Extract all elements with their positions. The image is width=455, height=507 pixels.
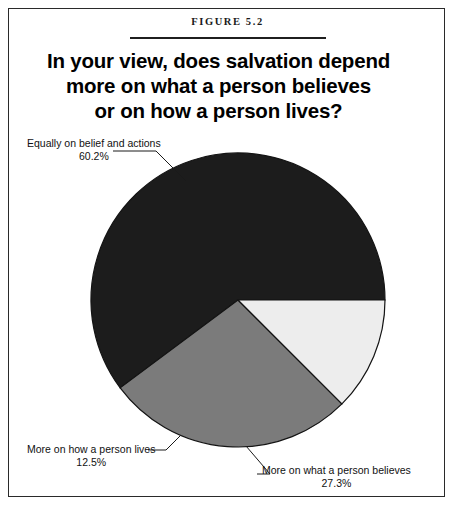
chart-title-line-1: In your view, does salvation depend: [14, 48, 423, 73]
header-divider: [130, 37, 326, 39]
callout-believes-percent: 27.3%: [262, 477, 411, 490]
callout-equally-percent: 60.2%: [27, 150, 161, 163]
figure-number-label: FIGURE 5.2: [0, 16, 455, 27]
chart-title: In your view, does salvation depend more…: [14, 48, 423, 123]
callout-lives-percent: 12.5%: [27, 456, 155, 469]
callout-lives: More on how a person lives 12.5%: [27, 443, 155, 469]
callout-believes-label: More on what a person believes: [262, 464, 411, 477]
callout-equally-label: Equally on belief and actions: [27, 137, 161, 150]
callout-equally: Equally on belief and actions 60.2%: [27, 137, 161, 163]
chart-title-line-2: more on what a person believes: [14, 73, 423, 98]
callout-lives-label: More on how a person lives: [27, 443, 155, 456]
callout-believes: More on what a person believes 27.3%: [262, 464, 411, 490]
chart-title-line-3: or on how a person lives?: [14, 98, 423, 123]
figure-container: FIGURE 5.2 In your view, does salvation …: [0, 0, 455, 507]
